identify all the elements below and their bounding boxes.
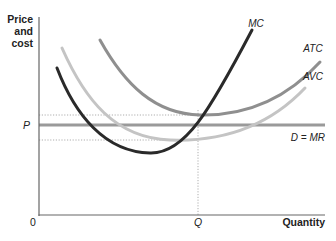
atc-label: ATC — [302, 43, 323, 54]
origin-label: 0 — [30, 216, 36, 228]
avc-label: AVC — [302, 71, 324, 82]
mc-label: MC — [248, 18, 264, 29]
p-tick-label: P — [23, 119, 30, 131]
q-tick-label: Q — [194, 216, 202, 228]
dmr-label: D = MR — [291, 132, 325, 143]
x-axis-label: Quantity — [282, 216, 325, 228]
y-axis-label-line1: Price — [7, 13, 33, 25]
cost-curves-chart: Price and cost P 0 Q Quantity MC ATC AVC… — [0, 0, 336, 241]
y-axis-label-line2: and — [14, 25, 33, 37]
y-axis-label-line3: cost — [11, 37, 33, 49]
